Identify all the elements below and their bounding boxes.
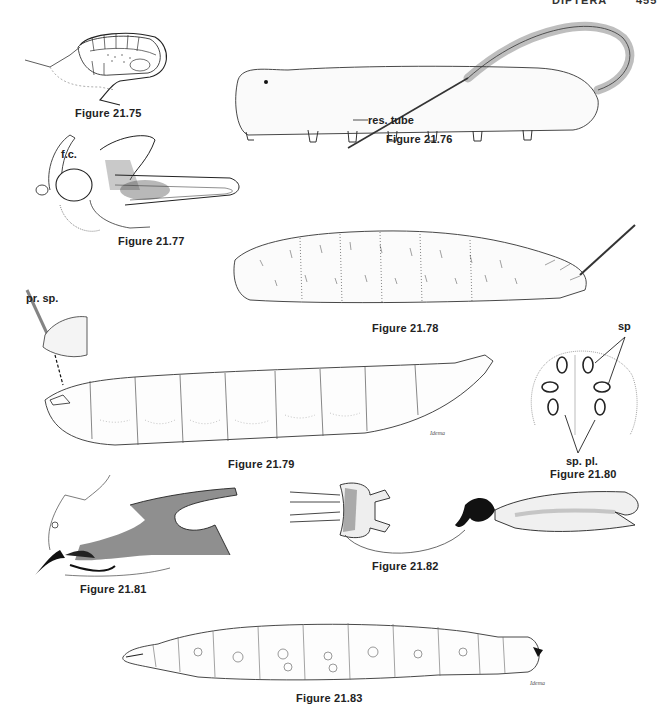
figure-21-83-caption: Figure 21.83: [296, 692, 363, 704]
figure-21-81-caption: Figure 21.81: [80, 583, 147, 595]
figure-21-81-drawing: [25, 470, 245, 580]
figure-21-80-drawing: [520, 345, 650, 445]
figure-21-83-signature: Idema: [530, 680, 545, 686]
figure-21-80-caption: Figure 21.80: [550, 468, 617, 480]
figure-21-75-caption: Figure 21.75: [75, 107, 142, 119]
figure-21-82-drawing: [285, 480, 655, 560]
figure-21-83-drawing: [118, 612, 548, 687]
pr-sp-label: pr. sp.: [26, 292, 58, 304]
res-tube-label: res. tube: [368, 114, 414, 126]
sp-pl-label: sp. pl.: [566, 455, 598, 467]
figure-21-77-caption: Figure 21.77: [118, 235, 185, 247]
figure-21-77-drawing: [30, 130, 245, 240]
running-title: DIPTERA: [552, 0, 607, 6]
figure-21-79-drawing: [15, 285, 500, 460]
figure-21-76-caption: Figure 21.76: [386, 133, 453, 145]
figure-21-82-caption: Figure 21.82: [372, 560, 439, 572]
figure-21-79-caption: Figure 21.79: [228, 458, 295, 470]
fc-label: f.c.: [61, 148, 77, 160]
sp-label: sp: [618, 320, 631, 332]
figure-21-75-drawing: [20, 25, 170, 105]
figure-21-79-signature: Idema: [430, 430, 445, 436]
figure-21-76-drawing: [228, 20, 648, 150]
page-number: 455: [636, 0, 657, 6]
